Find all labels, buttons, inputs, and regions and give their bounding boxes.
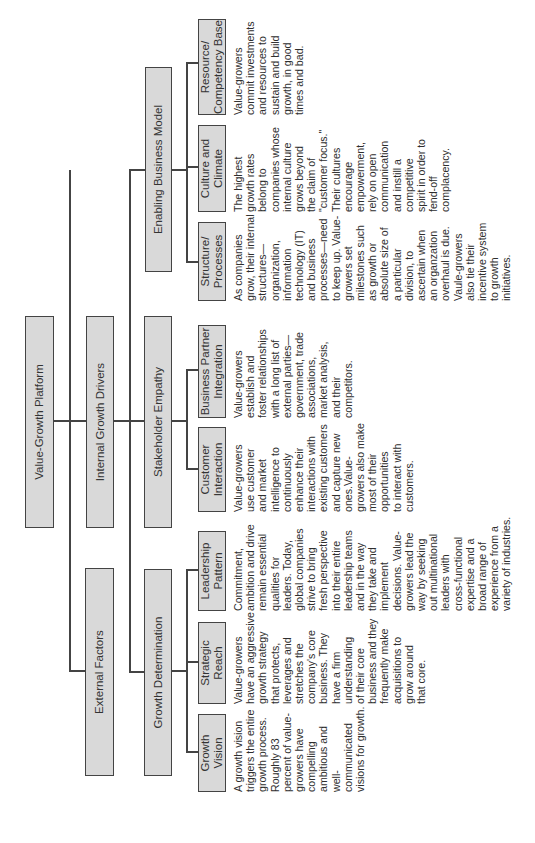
box-business-partner-integration: Business Partner Integration xyxy=(198,325,226,418)
box-strategic-reach: Strategic Reach xyxy=(198,622,226,704)
connector xyxy=(186,370,188,470)
box-stakeholder-empathy: Stakeholder Empathy xyxy=(144,316,172,528)
connector xyxy=(186,167,198,169)
desc-culture-and-climate: The highest growth rates belong to compa… xyxy=(232,117,452,212)
box-growth-determination: Growth Determination xyxy=(144,569,172,776)
value-growth-diagram: Value-Growth Platform External Factors I… xyxy=(0,0,535,843)
desc-customer-interaction: Value-growers use customer and market in… xyxy=(232,420,415,512)
box-enabling-business-model: Enabling Business Model xyxy=(145,67,172,272)
box-leadership-pattern: Leadership Pattern xyxy=(198,531,226,611)
connector xyxy=(186,262,198,264)
connector xyxy=(69,421,86,423)
desc-resource-competency-base: Value-growers commit investments and res… xyxy=(232,13,305,115)
connector xyxy=(186,662,198,664)
connector xyxy=(129,672,144,674)
connector xyxy=(69,671,85,673)
desc-strategic-reach: Value-growers have an aggressive growth … xyxy=(232,612,427,704)
connector xyxy=(172,170,186,172)
connector xyxy=(186,63,198,65)
connector xyxy=(172,671,186,673)
connector xyxy=(129,421,144,423)
desc-leadership-pattern: Commitment, ambition and drive remain es… xyxy=(232,511,513,611)
box-internal-growth-drivers: Internal Growth Drivers xyxy=(86,316,114,528)
connector xyxy=(186,570,198,572)
box-culture-and-climate: Culture and Climate xyxy=(198,125,226,212)
desc-business-partner-integration: Value-growers establish and foster relat… xyxy=(232,318,354,418)
connector xyxy=(114,421,129,423)
connector xyxy=(186,752,198,754)
root-box-value-growth-platform: Value-Growth Platform xyxy=(25,316,54,528)
connector xyxy=(186,370,198,372)
box-growth-vision: Growth Vision xyxy=(198,714,226,792)
box-external-factors: External Factors xyxy=(85,568,114,776)
connector xyxy=(172,421,186,423)
box-structure-processes: Structure/ Processes xyxy=(198,222,226,301)
connector xyxy=(186,63,188,263)
desc-growth-vision: A growth vision triggers the entire grow… xyxy=(232,702,366,792)
connector xyxy=(129,170,145,172)
desc-structure-processes: As companies grow, their internal struct… xyxy=(232,209,513,301)
connector xyxy=(186,469,198,471)
box-resource-competency-base: Resource/ Competency Base xyxy=(198,19,226,115)
box-customer-interaction: Customer Interaction xyxy=(198,427,226,512)
